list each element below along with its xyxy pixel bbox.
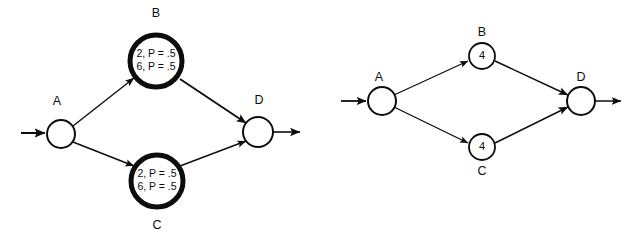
edge-a-to-c <box>394 107 468 143</box>
node-b-label: B <box>152 6 160 20</box>
node-c-inner-line-1: 6, P = .5 <box>137 180 176 192</box>
edge-a-to-b <box>394 61 468 95</box>
edge-c-to-d <box>180 141 246 166</box>
node-d-label: D <box>254 93 263 107</box>
figure-root: AB2, P = .56, P = .5C2, P = .56, P = .5D… <box>0 0 633 246</box>
node-a-circle[interactable] <box>47 120 75 148</box>
node-c-label: C <box>477 164 486 178</box>
node-d-circle[interactable] <box>243 117 273 147</box>
network-diagram-canvas: AB2, P = .56, P = .5C2, P = .56, P = .5D… <box>0 0 633 246</box>
node-c-inner-line-0: 2, P = .5 <box>137 167 176 179</box>
node-a-circle[interactable] <box>368 87 396 115</box>
edge-b-to-d <box>180 79 246 123</box>
node-b-inner-line-0: 2, P = .5 <box>136 47 175 59</box>
node-b-label: B <box>478 25 486 39</box>
edge-a-to-b <box>73 78 134 126</box>
left-panel: AB2, P = .56, P = .5C2, P = .56, P = .5D <box>21 6 300 232</box>
node-a-label: A <box>375 70 384 84</box>
edge-b-to-d <box>495 61 568 95</box>
node-b-inner-line-1: 6, P = .5 <box>136 60 175 72</box>
node-d-label: D <box>576 70 585 84</box>
right-panel: AB4C4D <box>341 25 621 178</box>
node-b-inner-line-0: 4 <box>479 49 485 61</box>
node-c-inner-line-0: 4 <box>479 140 485 152</box>
node-c-label: C <box>152 218 161 232</box>
edge-a-to-c <box>73 142 134 166</box>
node-a-label: A <box>53 94 62 108</box>
edge-c-to-d <box>495 107 568 143</box>
node-d-circle[interactable] <box>567 87 595 115</box>
